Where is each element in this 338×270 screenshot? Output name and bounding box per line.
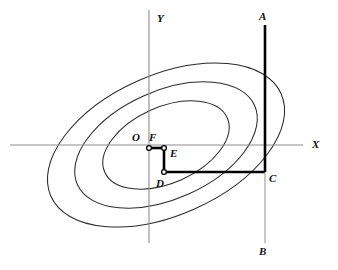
point-F-label: F xyxy=(148,131,157,143)
x-axis-label: X xyxy=(311,138,320,150)
point-A-label: A xyxy=(258,10,266,22)
geometry-figure: ABCDEF X Y O xyxy=(0,0,338,270)
point-D-marker xyxy=(162,170,167,175)
origin-label: O xyxy=(132,131,140,143)
point-F-marker xyxy=(147,146,152,151)
figure-canvas: ABCDEF X Y O xyxy=(0,0,338,270)
point-E-label: E xyxy=(169,147,177,159)
point-C-label: C xyxy=(269,172,277,184)
point-B-label: B xyxy=(258,245,266,257)
figure-background xyxy=(0,0,338,270)
point-D-label: D xyxy=(155,177,164,189)
point-E-marker xyxy=(162,146,167,151)
